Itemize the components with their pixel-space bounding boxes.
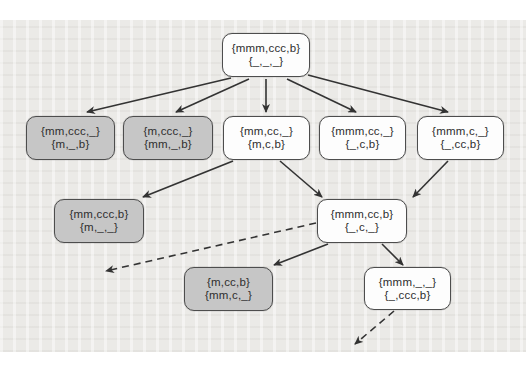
node-label-line: {mmm,ccc,b}	[232, 42, 301, 55]
tree-node-l3-1: {mm,ccc,b}{m,_,_}	[54, 199, 144, 243]
node-label-line: {m,_,_}	[80, 221, 118, 234]
node-label-line: {m,c,b}	[248, 138, 285, 151]
node-label-line: {mm,ccc,b}	[70, 208, 129, 221]
node-label-line: {m,_,b}	[52, 138, 90, 151]
tree-node-l4-2: {mmm,_,_}{_,ccc,b}	[364, 267, 451, 310]
node-label-line: {mm,c,_}	[205, 289, 252, 302]
tree-node-l2-3: {mm,cc,_}{m,c,b}	[223, 116, 310, 160]
node-label-line: {mm,_,b}	[144, 138, 192, 151]
tree-node-l2-1: {mm,ccc,_}{m,_,b}	[26, 116, 115, 160]
node-label-line: {_,ccc,b}	[385, 289, 431, 302]
node-label-line: {mmm,_,_}	[379, 276, 436, 289]
node-label-line: {_,_,_}	[249, 55, 284, 68]
tree-node-l2-2: {m,ccc,_}{mm,_,b}	[123, 116, 213, 160]
node-label-line: {m,ccc,_}	[143, 125, 192, 138]
node-label-line: {mm,cc,_}	[240, 125, 293, 138]
search-tree-diagram: {mmm,ccc,b}{_,_,_}{mm,ccc,_}{m,_,b}{m,cc…	[0, 0, 526, 367]
node-label-line: {_,cc,b}	[441, 138, 481, 151]
tree-node-l2-5: {mmm,c,_}{_,cc,b}	[417, 116, 504, 160]
node-label-line: {mmm,cc,b}	[331, 208, 394, 221]
node-label-line: {_,c,_}	[345, 221, 379, 234]
tree-node-l2-4: {mmm,cc,_}{_,c,b}	[319, 116, 406, 160]
node-label-line: {mm,ccc,_}	[41, 125, 100, 138]
node-label-line: {mmm,cc,_}	[331, 125, 394, 138]
node-label-line: {_,c,b}	[345, 138, 379, 151]
tree-node-root: {mmm,ccc,b}{_,_,_}	[222, 33, 310, 77]
node-label-line: {m,cc,b}	[207, 276, 250, 289]
node-label-line: {mmm,c,_}	[432, 125, 489, 138]
tree-node-l3-2: {mmm,cc,b}{_,c,_}	[317, 199, 407, 243]
tree-node-l4-1: {m,cc,b}{mm,c,_}	[184, 267, 273, 311]
